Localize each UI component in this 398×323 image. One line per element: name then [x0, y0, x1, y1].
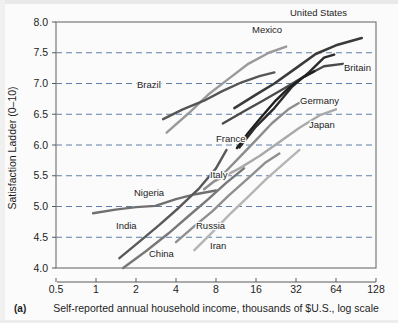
x-tick-label: 32 — [290, 283, 302, 295]
series-label: France — [216, 133, 246, 144]
y-tick-label: 5.0 — [33, 200, 48, 212]
panel-letter: (a) — [14, 303, 26, 314]
series-labels: United StatesUnited StatesBritainBritain… — [116, 7, 371, 259]
x-tick-label: 16 — [250, 283, 262, 295]
y-tick-label: 4.5 — [33, 231, 48, 243]
x-axis-title: Self-reported annual household income, t… — [53, 302, 379, 314]
series-label: Brazil — [137, 79, 161, 90]
series-line — [234, 38, 361, 108]
gridlines — [56, 53, 376, 238]
y-axis-ticks: 4.04.55.05.56.06.57.07.58.0 — [33, 16, 56, 274]
series-label: Russia — [196, 220, 226, 231]
series-label: Nigeria — [134, 187, 165, 198]
x-axis-ticks: 0.51248163264128 — [49, 278, 385, 295]
x-tick-label: 0.5 — [49, 283, 64, 295]
series-label: Italy — [210, 169, 228, 180]
y-tick-label: 6.5 — [33, 108, 48, 120]
scatter-line-chart: United StatesUnited StatesBritainBritain… — [0, 0, 398, 323]
y-tick-label: 5.5 — [33, 169, 48, 181]
series-line — [163, 72, 274, 119]
series-label: United States — [290, 7, 347, 18]
series-label: Germany — [300, 95, 339, 106]
series-lines — [93, 38, 362, 268]
y-axis-title: Satisfaction Ladder (0–10) — [6, 86, 18, 209]
series-label: India — [116, 220, 137, 231]
y-tick-label: 7.0 — [33, 77, 48, 89]
series-label: Japan — [309, 119, 335, 130]
series-line — [176, 154, 279, 243]
x-tick-label: 64 — [330, 283, 342, 295]
figure-panel: United StatesUnited StatesBritainBritain… — [0, 0, 398, 323]
x-tick-label: 1 — [93, 283, 99, 295]
series-label: Britain — [344, 62, 371, 73]
series-label: Iran — [210, 240, 226, 251]
x-tick-label: 4 — [173, 283, 179, 295]
x-tick-label: 2 — [133, 283, 139, 295]
series-label: China — [149, 248, 175, 259]
x-tick-label: 128 — [367, 283, 385, 295]
series-label: Mexico — [252, 24, 282, 35]
y-tick-label: 6.0 — [33, 139, 48, 151]
y-tick-label: 8.0 — [33, 16, 48, 28]
x-tick-label: 8 — [213, 283, 219, 295]
y-tick-label: 4.0 — [33, 262, 48, 274]
y-tick-label: 7.5 — [33, 46, 48, 58]
